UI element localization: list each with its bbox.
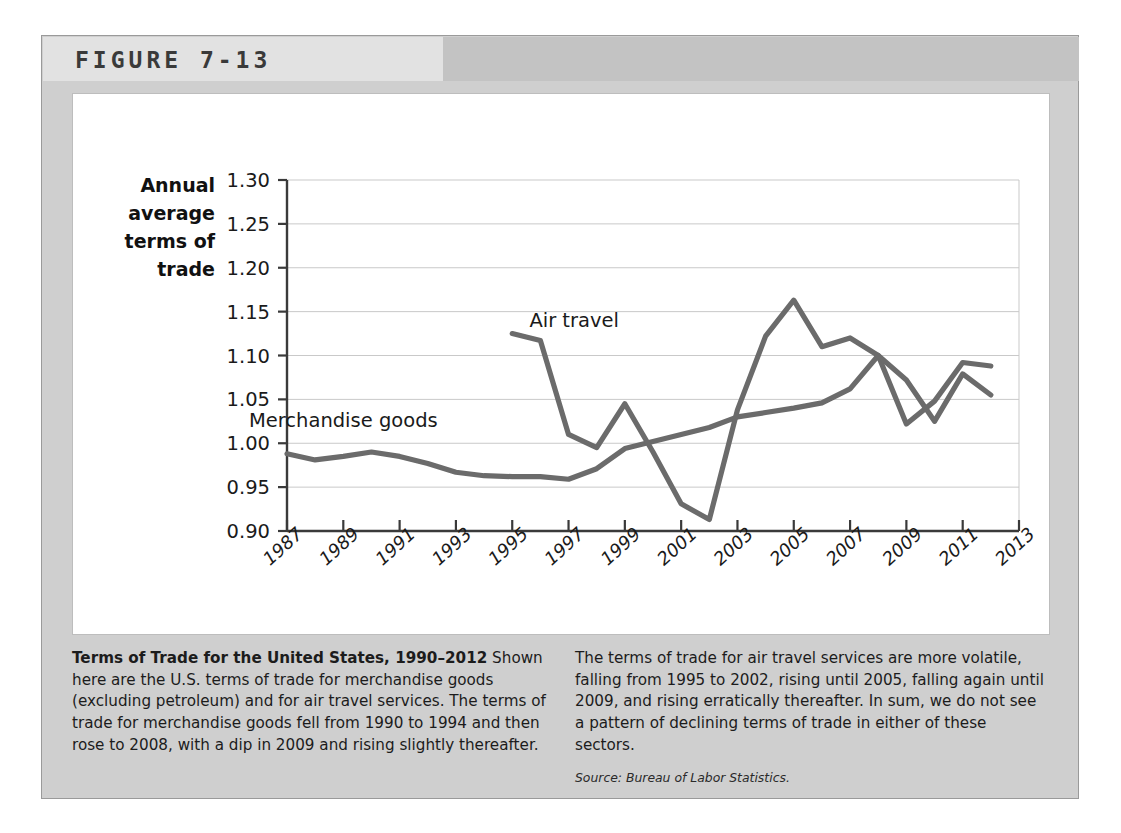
y-axis-tick-label: 0.90 [227, 520, 270, 543]
y-axis-title-line: trade [157, 258, 215, 280]
caption-right-column: The terms of trade for air travel servic… [575, 648, 1050, 788]
y-axis-tick-label: 0.95 [227, 476, 270, 499]
y-axis-tick-label: 1.20 [227, 257, 270, 280]
figure-box: FIGURE 7-13 0.900.951.001.051.101.151.20… [41, 35, 1079, 799]
series-inline-label: Merchandise goods [249, 409, 438, 432]
y-axis-title-line: Annual [140, 174, 215, 196]
caption-left-column: Terms of Trade for the United States, 19… [72, 648, 547, 788]
y-axis-tick-label: 1.00 [227, 432, 270, 455]
chart-panel: 0.900.951.001.051.101.151.201.251.301987… [72, 93, 1050, 635]
source-note: Source: Bureau of Labor Statistics. [575, 769, 1050, 787]
y-axis-tick-label: 1.25 [227, 213, 270, 236]
caption-title: Terms of Trade for the United States, 19… [72, 649, 487, 667]
caption-right-body: The terms of trade for air travel servic… [575, 648, 1050, 757]
x-axis-tick-label: 1997 [540, 523, 589, 570]
y-axis-tick-label: 1.10 [227, 345, 270, 368]
figure-number-label: FIGURE 7-13 [75, 47, 271, 73]
y-axis-tick-label: 1.05 [227, 388, 270, 411]
figure-page: FIGURE 7-13 0.900.951.001.051.101.151.20… [0, 0, 1121, 833]
y-axis-title-line: average [128, 202, 215, 224]
y-axis-tick-label: 1.15 [227, 301, 270, 324]
terms-of-trade-line-chart: 0.900.951.001.051.101.151.201.251.301987… [73, 94, 1049, 634]
y-axis-title-line: terms of [125, 230, 216, 252]
figure-header: FIGURE 7-13 [43, 37, 1079, 81]
caption-area: Terms of Trade for the United States, 19… [72, 648, 1050, 788]
y-axis-tick-label: 1.30 [227, 169, 270, 192]
x-axis-tick-label: 2007 [822, 523, 871, 570]
series-inline-label: Air travel [529, 309, 619, 332]
